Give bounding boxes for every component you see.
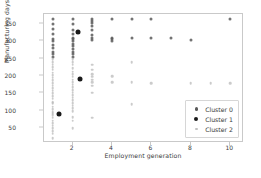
data-point <box>51 27 54 30</box>
data-point <box>71 28 74 31</box>
legend-item[interactable]: Cluster 0 <box>190 104 233 114</box>
data-point <box>150 17 153 20</box>
plot-axes: Cluster 0 Cluster 1 Cluster 2 <box>43 13 243 142</box>
data-point <box>229 82 232 85</box>
data-point <box>71 116 74 119</box>
data-point <box>130 81 133 84</box>
legend-label-cluster-1: Cluster 1 <box>205 116 233 123</box>
data-point <box>51 17 54 20</box>
data-point <box>52 132 55 135</box>
data-point <box>150 82 153 85</box>
y-tick-label: 100 <box>0 106 16 113</box>
data-point <box>52 97 55 100</box>
legend-item[interactable]: Cluster 2 <box>190 124 233 134</box>
x-tick-mark <box>150 142 151 146</box>
legend-marker-cluster-2 <box>190 128 202 131</box>
data-point <box>71 22 74 25</box>
x-tick-mark <box>111 142 112 146</box>
y-tick-label: 350 <box>0 19 16 26</box>
legend-marker-cluster-0 <box>190 107 202 110</box>
data-point <box>110 40 113 43</box>
legend-item[interactable]: Cluster 1 <box>190 114 233 124</box>
data-point <box>91 91 94 94</box>
legend-marker-cluster-1 <box>190 117 202 121</box>
data-point <box>150 37 153 40</box>
data-point <box>52 137 55 140</box>
data-point <box>91 117 94 120</box>
data-point <box>170 37 173 40</box>
data-point <box>78 76 83 81</box>
data-point <box>209 82 212 85</box>
data-point <box>130 17 133 20</box>
data-point <box>71 110 74 113</box>
data-point <box>91 68 94 71</box>
data-point <box>91 85 94 88</box>
data-point <box>91 29 94 32</box>
y-tick-label: 300 <box>0 37 16 44</box>
data-point <box>71 127 74 130</box>
data-point <box>91 81 94 84</box>
data-point <box>110 17 113 20</box>
data-point <box>189 39 192 42</box>
data-point <box>76 30 81 35</box>
data-point <box>111 75 114 78</box>
data-point <box>111 81 114 84</box>
data-point <box>91 64 94 67</box>
legend-label-cluster-2: Cluster 2 <box>205 126 233 133</box>
y-tick-label: 200 <box>0 72 16 79</box>
x-axis-label: Employment generation <box>43 152 243 159</box>
data-point <box>56 111 61 116</box>
data-point <box>51 22 54 25</box>
data-point <box>51 33 54 36</box>
x-tick-mark <box>229 142 230 146</box>
data-point <box>130 103 133 106</box>
y-tick-label: 250 <box>0 54 16 61</box>
data-point <box>91 39 94 42</box>
data-point <box>130 61 133 64</box>
legend: Cluster 0 Cluster 1 Cluster 2 <box>185 100 239 138</box>
data-point <box>130 37 133 40</box>
legend-label-cluster-0: Cluster 0 <box>205 106 233 113</box>
x-tick-mark <box>72 142 73 146</box>
y-tick-label: 150 <box>0 89 16 96</box>
y-tick-label: 50 <box>0 124 16 131</box>
data-point <box>71 119 74 122</box>
data-point <box>91 24 94 27</box>
data-point <box>229 17 232 20</box>
data-point <box>190 82 193 85</box>
data-point <box>71 67 74 70</box>
x-tick-mark <box>190 142 191 146</box>
data-point <box>52 102 55 105</box>
scatter-plot-figure: Manufacturing days Employment generation… <box>0 0 261 178</box>
data-point <box>71 17 74 20</box>
data-point <box>71 64 74 67</box>
